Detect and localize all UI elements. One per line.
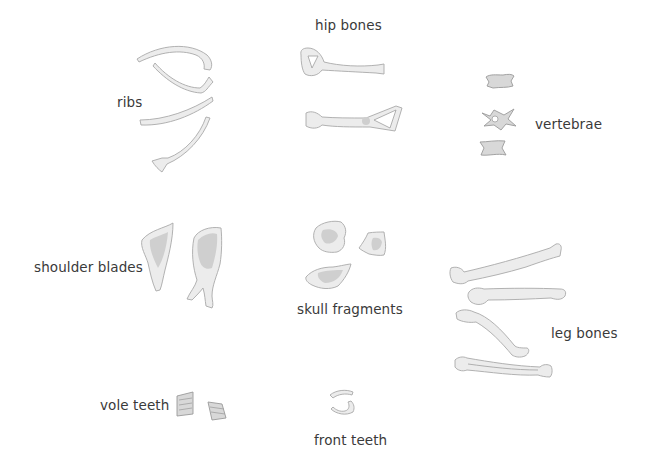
label-hip-bones: hip bones [315, 17, 382, 33]
label-skull-fragments: skull fragments [297, 301, 403, 317]
hip-bones-illustration [301, 48, 402, 131]
label-vole-teeth: vole teeth [100, 397, 169, 413]
leg-bones-illustration [450, 244, 566, 377]
label-vertebrae: vertebrae [535, 116, 602, 132]
label-ribs: ribs [117, 94, 142, 110]
label-shoulder-blades: shoulder blades [34, 259, 143, 275]
skull-fragments-illustration [306, 221, 386, 288]
label-leg-bones: leg bones [551, 325, 618, 341]
ribs-illustration [137, 46, 213, 172]
bones-illustration [0, 0, 647, 465]
shoulder-blades-illustration [142, 223, 222, 308]
vertebrae-illustration [480, 74, 516, 155]
label-front-teeth: front teeth [314, 432, 387, 448]
front-teeth-illustration [330, 390, 354, 414]
vole-teeth-illustration [177, 392, 226, 420]
